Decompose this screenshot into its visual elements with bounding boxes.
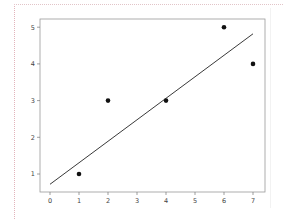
- y-tick-label: 2: [31, 134, 35, 142]
- y-tick-label: 1: [31, 170, 35, 178]
- y-tick-label: 3: [31, 97, 35, 105]
- regression-line: [50, 34, 253, 184]
- data-point: [106, 98, 111, 103]
- series-layer: [50, 25, 255, 184]
- plot-area: [40, 19, 265, 192]
- x-tick-label: 5: [193, 197, 197, 205]
- x-axis-ticks: 01234567: [48, 192, 255, 205]
- x-tick-label: 6: [222, 197, 226, 205]
- y-tick-label: 4: [31, 60, 35, 68]
- x-tick-label: 0: [48, 197, 52, 205]
- x-tick-label: 2: [106, 197, 110, 205]
- x-tick-label: 7: [251, 197, 255, 205]
- data-point: [77, 172, 82, 177]
- x-tick-label: 4: [164, 197, 168, 205]
- x-tick-label: 3: [135, 197, 139, 205]
- scatter-chart: 01234567 12345: [0, 0, 283, 219]
- data-point: [222, 25, 227, 30]
- y-tick-label: 5: [31, 24, 35, 32]
- y-axis-ticks: 12345: [31, 24, 40, 179]
- data-point: [251, 62, 256, 67]
- x-tick-label: 1: [77, 197, 81, 205]
